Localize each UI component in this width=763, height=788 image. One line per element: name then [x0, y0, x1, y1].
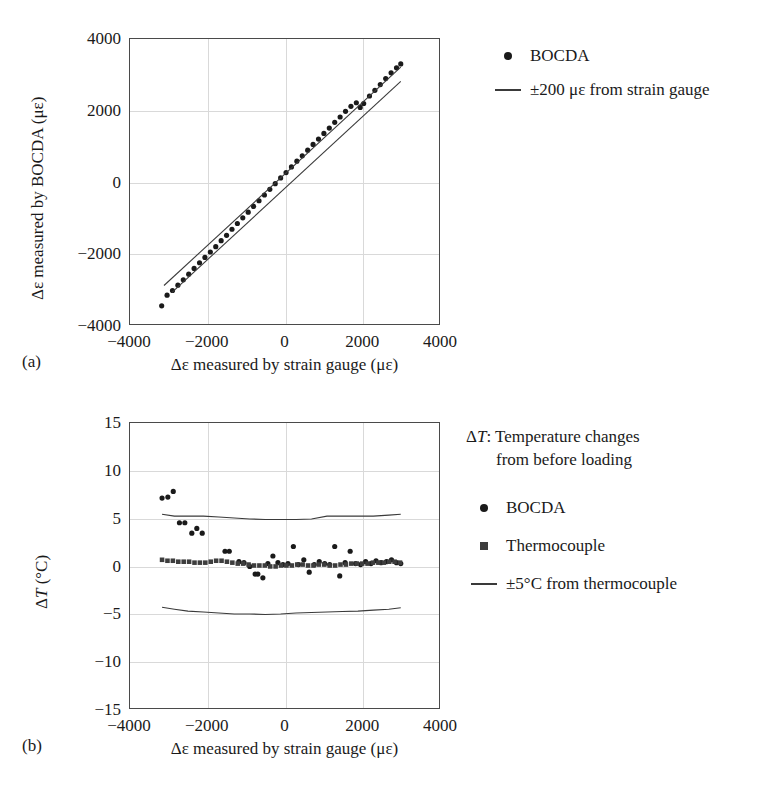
data-point-circle	[260, 575, 265, 580]
y-tick-label: −15	[33, 701, 121, 718]
data-point-circle	[398, 61, 403, 66]
y-tick-label: 4000	[33, 30, 121, 47]
data-point-square	[171, 558, 176, 563]
line-marker-icon	[466, 583, 502, 586]
data-point-square	[219, 558, 224, 563]
data-point-square	[198, 560, 203, 565]
data-point-square	[241, 561, 246, 566]
data-layer-a	[130, 39, 439, 324]
data-point-square	[290, 563, 295, 568]
data-point-circle	[301, 557, 306, 562]
data-point-circle	[348, 549, 353, 554]
data-point-circle	[235, 221, 240, 226]
x-tick-label: 4000	[423, 333, 457, 350]
bound-line	[172, 81, 401, 292]
x-tick-label: 2000	[345, 717, 379, 734]
x-tick-label: 2000	[345, 333, 379, 350]
data-point-square	[344, 562, 349, 567]
y-tick-label: −10	[33, 653, 121, 670]
data-point-square	[376, 560, 381, 565]
data-point-square	[176, 559, 181, 564]
data-point-circle	[219, 238, 224, 243]
x-tick-label: 4000	[423, 717, 457, 734]
y-tick-label: 15	[33, 414, 121, 431]
circle-marker-icon	[466, 504, 502, 512]
data-point-square	[187, 559, 192, 564]
y-axis-title-b: ΔT (°C)	[32, 555, 52, 609]
circle-marker-icon	[490, 52, 526, 60]
data-point-circle	[338, 114, 343, 119]
data-point-circle	[337, 573, 342, 578]
data-point-circle	[348, 104, 353, 109]
data-point-circle	[240, 215, 245, 220]
data-layer-b	[130, 423, 439, 708]
data-point-square	[322, 562, 327, 567]
y-axis-title-b-text: ΔT (°C)	[32, 555, 51, 609]
data-point-square	[192, 560, 197, 565]
data-point-square	[273, 564, 278, 569]
data-point-circle	[194, 526, 199, 531]
y-axis-title-a: Δε measured by BOCDA (με)	[28, 97, 48, 300]
legend-note-line2: from before loading	[466, 449, 756, 472]
data-point-square	[365, 561, 370, 566]
data-point-circle	[343, 109, 348, 114]
data-point-square	[300, 562, 305, 567]
data-point-circle	[246, 210, 251, 215]
data-point-circle	[327, 125, 332, 130]
data-point-square	[225, 559, 230, 564]
bound-line	[164, 67, 401, 285]
data-point-square	[235, 561, 240, 566]
data-point-circle	[164, 293, 169, 298]
data-point-square	[214, 558, 219, 563]
data-point-circle	[208, 249, 213, 254]
data-point-circle	[165, 495, 170, 500]
data-point-circle	[321, 131, 326, 136]
panel-a: −4000−2000020004000−4000−2000020004000 Δ…	[0, 0, 763, 394]
data-point-circle	[171, 489, 176, 494]
x-tick-label: −4000	[107, 333, 151, 350]
legend-item-thermocouple: Thermocouple	[466, 536, 756, 556]
legend-b: ΔT: Temperature changes from before load…	[466, 426, 756, 604]
data-point-circle	[291, 544, 296, 549]
data-point-square	[160, 558, 165, 563]
data-point-square	[306, 563, 311, 568]
data-point-circle	[159, 495, 164, 500]
data-point-square	[279, 563, 284, 568]
data-point-square	[349, 561, 354, 566]
data-point-circle	[189, 531, 194, 536]
y-tick-label: 10	[33, 461, 121, 478]
data-point-circle	[307, 570, 312, 575]
data-point-square	[311, 563, 316, 568]
data-point-circle	[213, 244, 218, 249]
data-point-circle	[224, 233, 229, 238]
data-point-circle	[202, 255, 207, 260]
legend-label-bocda-b: BOCDA	[502, 498, 566, 518]
plot-area-b	[129, 422, 440, 709]
data-point-circle	[270, 553, 275, 558]
data-point-square	[252, 563, 257, 568]
data-point-square	[263, 563, 268, 568]
panel-b: −15−10−5051015−4000−2000020004000 ΔT (°C…	[0, 394, 763, 788]
plot-area-a	[129, 38, 440, 325]
data-point-circle	[354, 100, 359, 105]
data-point-circle	[177, 520, 182, 525]
legend-a: BOCDA ±200 με from strain gauge	[490, 46, 710, 110]
x-tick-label: 0	[280, 333, 289, 350]
data-point-square	[246, 562, 251, 567]
line-marker-icon	[490, 89, 526, 92]
x-tick-label: −4000	[107, 717, 151, 734]
data-point-circle	[255, 571, 260, 576]
data-point-square	[165, 558, 170, 563]
legend-item-bound-b: ±5°C from thermocouple	[466, 574, 756, 594]
data-point-circle	[197, 260, 202, 265]
data-point-square	[257, 563, 262, 568]
legend-label-bound-b: ±5°C from thermocouple	[502, 574, 677, 594]
x-axis-title-a: Δε measured by strain gauge (με)	[129, 355, 440, 375]
data-point-circle	[200, 531, 205, 536]
legend-note-temperature: ΔT: Temperature changes from before load…	[466, 426, 756, 472]
y-tick-label: −4000	[33, 317, 121, 334]
data-point-square	[371, 560, 376, 565]
data-point-square	[317, 562, 322, 567]
bound-line	[162, 607, 401, 614]
data-point-square	[338, 562, 343, 567]
